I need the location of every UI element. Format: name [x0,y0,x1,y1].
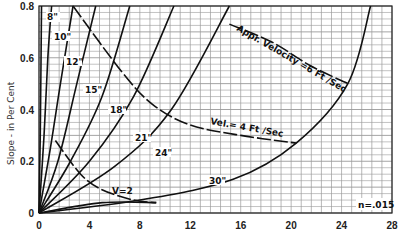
label-12in: 12" [66,57,83,67]
x-tick-label: 4 [87,220,93,231]
label-15in: 15" [85,85,102,95]
x-tick-label: 12 [185,220,197,231]
y-tick-label: 0.8 [20,1,34,12]
label-8in: 8" [47,12,58,22]
label-v2: V=2 [112,186,133,196]
x-tick-label: 16 [235,220,247,231]
y-tick-label: 0 [28,208,34,219]
y-axis-label: Slope - in Per Cent [6,81,16,165]
x-tick-label: 20 [286,220,298,231]
x-tick-label: 24 [336,220,348,231]
label-24in: 24" [155,148,172,158]
slope-velocity-chart: 048121620242800.20.40.60.8 Slope - in Pe… [0,0,398,238]
y-tick-label: 0.2 [20,156,34,167]
x-tick-label: 0 [36,220,42,231]
label-10in: 10" [54,32,71,42]
y-tick-label: 0.4 [20,105,34,116]
label-21in: 21" [135,133,152,143]
x-tick-label: 28 [386,220,398,231]
label-18in: 18" [110,105,127,115]
n-value-annotation: n=.015 [358,200,394,210]
x-tick-label: 8 [137,220,143,231]
y-tick-label: 0.6 [20,53,34,64]
label-30in: 30" [209,176,226,186]
